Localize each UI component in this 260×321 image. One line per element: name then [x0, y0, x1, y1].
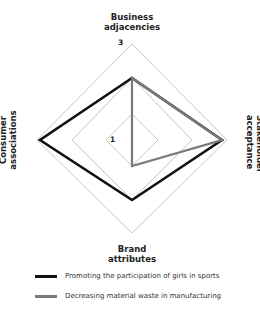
legend-label: Decreasing material waste in manufacturi… [65, 292, 221, 300]
axis-label-consumer-associations: Consumer associations [0, 110, 18, 170]
axis-label-brand-attributes: Brand attributes [92, 244, 172, 264]
axis-label-line: attributes [92, 254, 172, 264]
axis-label-line: adjacencies [92, 22, 172, 32]
axis-label-business-adjacencies: Business adjacencies [92, 12, 172, 32]
legend-swatch-gray [35, 295, 57, 298]
legend-swatch-black [35, 275, 57, 278]
legend-item-girls-in-sports: Promoting the participation of girls in … [35, 272, 219, 280]
legend-item-material-waste: Decreasing material waste in manufacturi… [35, 292, 221, 300]
axis-label-stakeholder-acceptance: Stakeholder acceptance [245, 115, 260, 165]
tick-label-1: 1 [110, 135, 115, 144]
tick-label-3: 3 [118, 38, 123, 47]
axis-label-text: Stakeholder acceptance [245, 115, 260, 173]
legend-label: Promoting the participation of girls in … [65, 272, 219, 280]
axis-label-line: Brand [92, 244, 172, 254]
axis-label-line: Business [92, 12, 172, 22]
axis-label-text: Consumer associations [0, 110, 18, 169]
